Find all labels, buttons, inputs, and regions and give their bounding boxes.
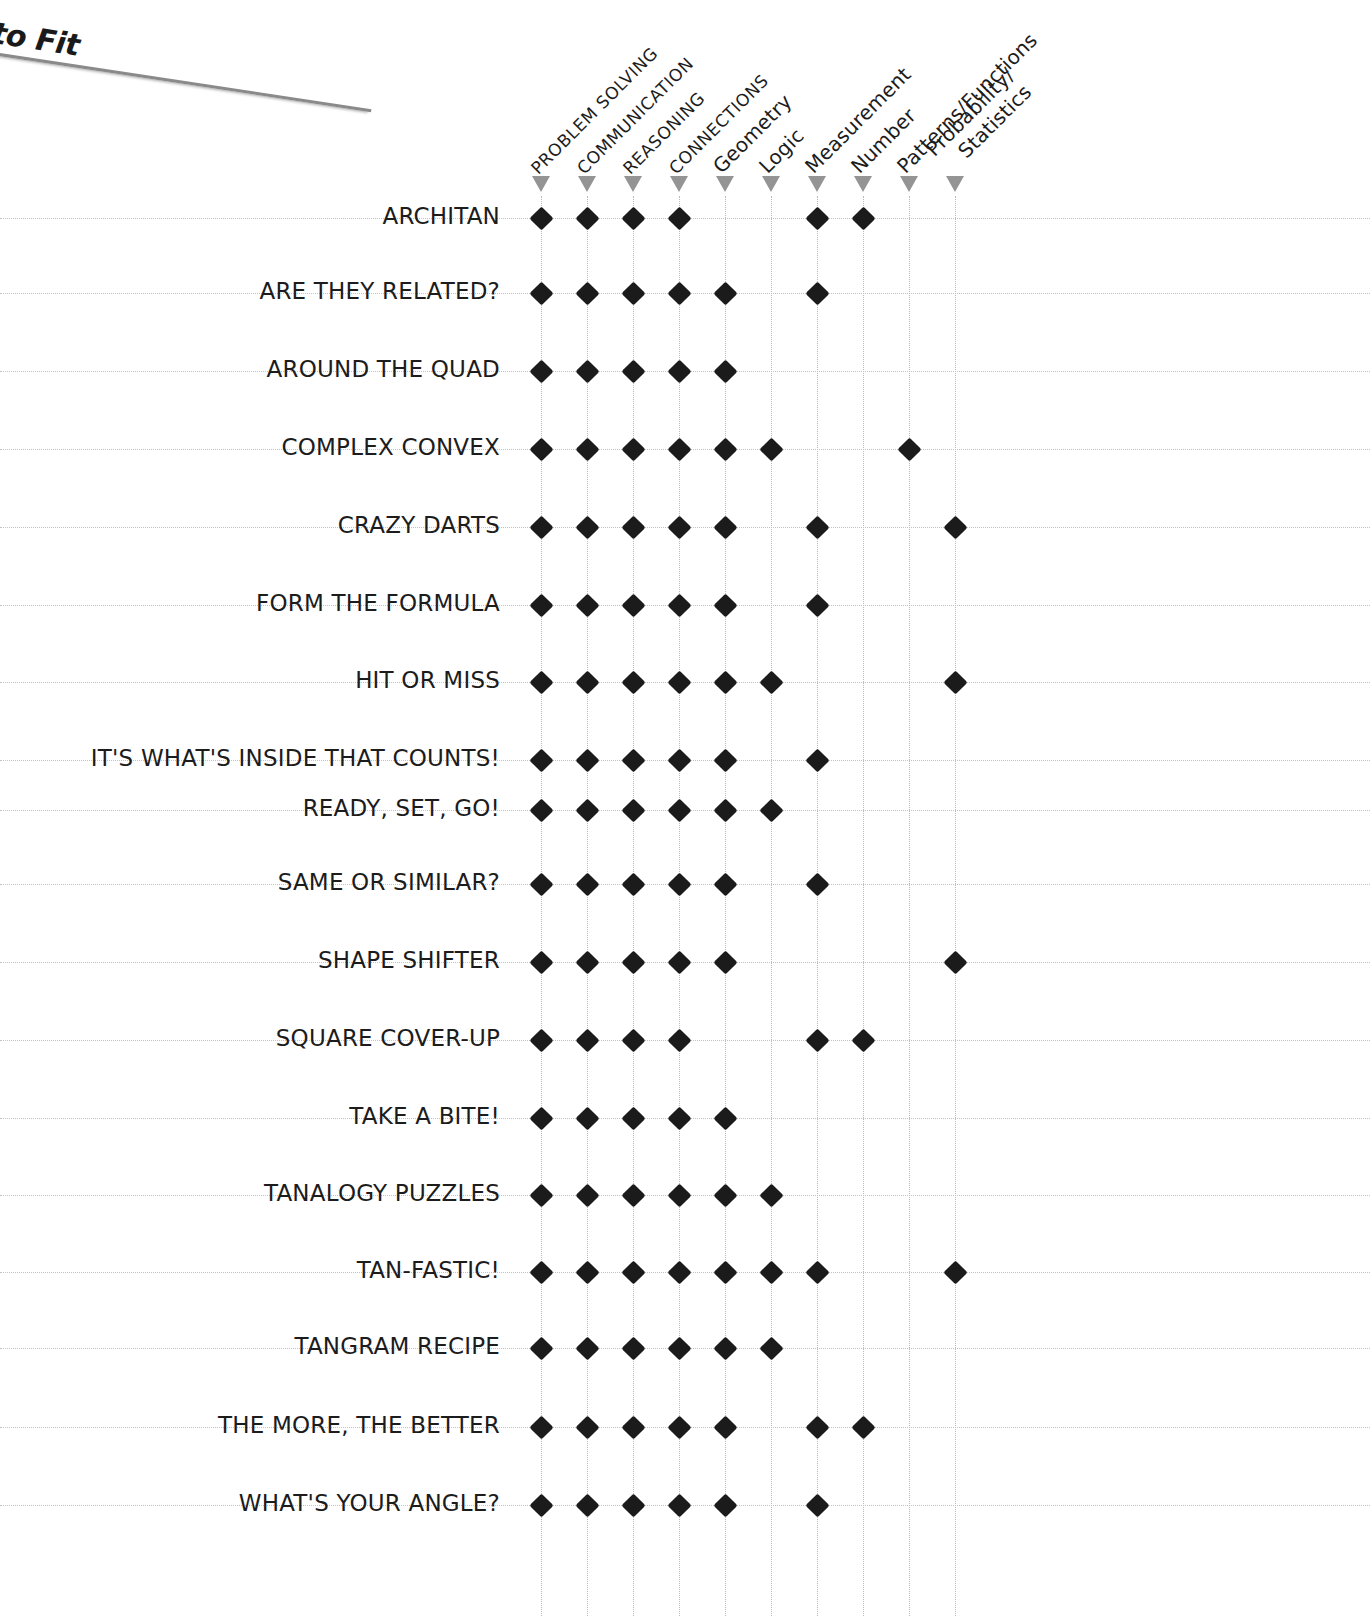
matrix-marker[interactable] (713, 1415, 737, 1439)
matrix-marker[interactable] (529, 593, 553, 617)
matrix-marker[interactable] (621, 593, 645, 617)
matrix-marker[interactable] (529, 515, 553, 539)
matrix-marker[interactable] (667, 515, 691, 539)
matrix-marker[interactable] (667, 359, 691, 383)
matrix-marker[interactable] (805, 748, 829, 772)
matrix-marker[interactable] (713, 359, 737, 383)
matrix-marker[interactable] (943, 670, 967, 694)
matrix-marker[interactable] (805, 593, 829, 617)
matrix-marker[interactable] (529, 206, 553, 230)
matrix-marker[interactable] (575, 206, 599, 230)
matrix-marker[interactable] (575, 872, 599, 896)
matrix-marker[interactable] (713, 515, 737, 539)
matrix-marker[interactable] (529, 1336, 553, 1360)
matrix-marker[interactable] (529, 281, 553, 305)
matrix-marker[interactable] (621, 281, 645, 305)
matrix-marker[interactable] (759, 1336, 783, 1360)
matrix-marker[interactable] (621, 872, 645, 896)
matrix-marker[interactable] (621, 1493, 645, 1517)
matrix-marker[interactable] (713, 593, 737, 617)
matrix-marker[interactable] (529, 437, 553, 461)
matrix-marker[interactable] (713, 1493, 737, 1517)
matrix-marker[interactable] (713, 1260, 737, 1284)
matrix-marker[interactable] (621, 748, 645, 772)
matrix-marker[interactable] (575, 1415, 599, 1439)
matrix-marker[interactable] (529, 1183, 553, 1207)
matrix-marker[interactable] (575, 1028, 599, 1052)
matrix-marker[interactable] (575, 950, 599, 974)
matrix-marker[interactable] (759, 1260, 783, 1284)
matrix-marker[interactable] (805, 1028, 829, 1052)
matrix-marker[interactable] (667, 1415, 691, 1439)
matrix-marker[interactable] (575, 515, 599, 539)
matrix-marker[interactable] (713, 748, 737, 772)
matrix-marker[interactable] (575, 748, 599, 772)
matrix-marker[interactable] (575, 1183, 599, 1207)
matrix-marker[interactable] (759, 798, 783, 822)
matrix-marker[interactable] (575, 798, 599, 822)
matrix-marker[interactable] (805, 515, 829, 539)
matrix-marker[interactable] (713, 437, 737, 461)
matrix-marker[interactable] (621, 1028, 645, 1052)
matrix-marker[interactable] (805, 1493, 829, 1517)
matrix-marker[interactable] (713, 872, 737, 896)
matrix-marker[interactable] (713, 1336, 737, 1360)
matrix-marker[interactable] (667, 1183, 691, 1207)
matrix-marker[interactable] (713, 1183, 737, 1207)
matrix-marker[interactable] (621, 670, 645, 694)
matrix-marker[interactable] (529, 748, 553, 772)
matrix-marker[interactable] (529, 1028, 553, 1052)
matrix-marker[interactable] (529, 359, 553, 383)
matrix-marker[interactable] (943, 950, 967, 974)
matrix-marker[interactable] (943, 515, 967, 539)
matrix-marker[interactable] (851, 1415, 875, 1439)
matrix-marker[interactable] (621, 206, 645, 230)
matrix-marker[interactable] (943, 1260, 967, 1284)
matrix-marker[interactable] (713, 670, 737, 694)
matrix-marker[interactable] (713, 281, 737, 305)
matrix-marker[interactable] (575, 437, 599, 461)
matrix-marker[interactable] (759, 670, 783, 694)
matrix-marker[interactable] (667, 670, 691, 694)
matrix-marker[interactable] (575, 359, 599, 383)
matrix-marker[interactable] (621, 1183, 645, 1207)
matrix-marker[interactable] (805, 281, 829, 305)
matrix-marker[interactable] (621, 798, 645, 822)
matrix-marker[interactable] (713, 950, 737, 974)
matrix-marker[interactable] (529, 670, 553, 694)
matrix-marker[interactable] (759, 437, 783, 461)
matrix-marker[interactable] (575, 1336, 599, 1360)
matrix-marker[interactable] (529, 798, 553, 822)
matrix-marker[interactable] (667, 593, 691, 617)
matrix-marker[interactable] (667, 748, 691, 772)
matrix-marker[interactable] (575, 670, 599, 694)
matrix-marker[interactable] (667, 437, 691, 461)
matrix-marker[interactable] (529, 1415, 553, 1439)
matrix-marker[interactable] (667, 206, 691, 230)
matrix-marker[interactable] (805, 872, 829, 896)
matrix-marker[interactable] (805, 1415, 829, 1439)
matrix-marker[interactable] (805, 1260, 829, 1284)
matrix-marker[interactable] (575, 593, 599, 617)
matrix-marker[interactable] (667, 1260, 691, 1284)
matrix-marker[interactable] (575, 1106, 599, 1130)
matrix-marker[interactable] (529, 950, 553, 974)
matrix-marker[interactable] (713, 798, 737, 822)
matrix-marker[interactable] (851, 206, 875, 230)
matrix-marker[interactable] (621, 437, 645, 461)
matrix-marker[interactable] (667, 1493, 691, 1517)
matrix-marker[interactable] (851, 1028, 875, 1052)
matrix-marker[interactable] (897, 437, 921, 461)
matrix-marker[interactable] (667, 1336, 691, 1360)
matrix-marker[interactable] (575, 281, 599, 305)
matrix-marker[interactable] (621, 1260, 645, 1284)
matrix-marker[interactable] (529, 1260, 553, 1284)
matrix-marker[interactable] (759, 1183, 783, 1207)
matrix-marker[interactable] (667, 281, 691, 305)
matrix-marker[interactable] (621, 515, 645, 539)
matrix-marker[interactable] (621, 1106, 645, 1130)
matrix-marker[interactable] (621, 950, 645, 974)
matrix-marker[interactable] (621, 1415, 645, 1439)
matrix-marker[interactable] (529, 1493, 553, 1517)
matrix-marker[interactable] (621, 1336, 645, 1360)
